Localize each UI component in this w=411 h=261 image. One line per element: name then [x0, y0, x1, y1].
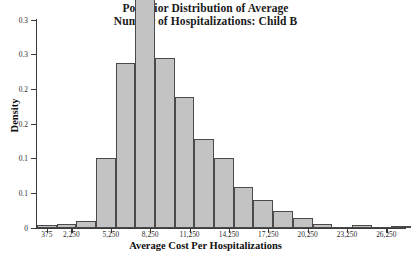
histogram-bar	[155, 58, 175, 228]
histogram-bar	[37, 225, 57, 228]
x-tick-label: 17,250	[258, 230, 278, 239]
plot-area	[37, 20, 406, 228]
histogram-bar	[253, 200, 273, 228]
y-tick-label: 0.3	[0, 16, 28, 25]
x-tick-label: 2,250	[63, 230, 80, 239]
histogram-bar	[214, 158, 234, 228]
x-axis-title: Average Cost Per Hospitalizations	[0, 240, 411, 251]
histogram-bar	[391, 226, 411, 228]
y-tick-label: 0.1	[0, 154, 28, 163]
histogram-bar	[175, 97, 195, 228]
y-tick-label: 0.3	[0, 50, 28, 59]
histogram-bar	[194, 139, 214, 228]
histogram-bar	[273, 211, 293, 228]
y-tick-label: 0.1	[0, 189, 28, 198]
y-tick-label: 0.2	[0, 85, 28, 94]
x-tick-label: 375	[41, 230, 52, 239]
histogram-bar	[313, 224, 333, 228]
histogram-bar	[57, 224, 77, 228]
histogram-bar	[116, 63, 136, 228]
histogram-bar	[372, 227, 392, 228]
x-tick-label: 8,250	[142, 230, 159, 239]
x-tick-label: 20,250	[297, 230, 317, 239]
histogram-bar	[293, 218, 313, 228]
x-tick-label: 26,250	[376, 230, 396, 239]
x-tick-label: 5,250	[102, 230, 119, 239]
histogram-chart: Posterior Distribution of Average Number…	[0, 0, 411, 261]
histogram-bar	[96, 158, 116, 228]
x-tick-label: 14,250	[219, 230, 239, 239]
y-tick-label: 0	[0, 224, 28, 233]
x-tick-label: 23,250	[337, 230, 357, 239]
histogram-bar	[234, 187, 254, 228]
chart-title-line-1: Posterior Distribution of Average	[0, 2, 411, 15]
histogram-bar	[352, 225, 372, 228]
histogram-bar	[135, 0, 155, 228]
y-tick-label: 0.2	[0, 120, 28, 129]
histogram-bar	[332, 227, 352, 228]
histogram-bar	[76, 221, 96, 228]
x-tick-label: 11,250	[179, 230, 199, 239]
